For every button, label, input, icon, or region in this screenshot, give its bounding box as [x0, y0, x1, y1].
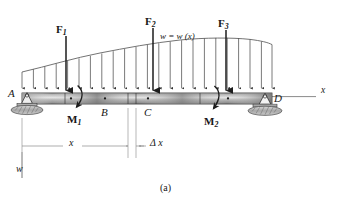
- force-f2-subscript: 2: [152, 20, 156, 29]
- label-moment-m1: M1: [67, 114, 81, 125]
- label-dimension-x: x: [69, 138, 73, 148]
- label-w-axis: w: [16, 164, 23, 174]
- label-force-f2: F2: [145, 16, 156, 27]
- distributed-load-curve: [22, 38, 272, 72]
- label-force-f1: F1: [56, 24, 67, 35]
- moment-m1-symbol: M: [67, 113, 77, 125]
- distributed-load-arrows: [22, 38, 272, 88]
- figure-caption: (a): [160, 183, 171, 193]
- beam-diagram-figure: A B C D x w = w (x) w F1 F2 F3 M1 M2 x Δ…: [0, 0, 337, 201]
- moment-m2-symbol: M: [204, 115, 214, 127]
- moment-m1-subscript: 1: [77, 118, 81, 127]
- force-f2-symbol: F: [145, 15, 152, 27]
- label-dimension-delta-x: Δ x: [150, 138, 163, 148]
- label-load-function: w = w (x): [160, 32, 195, 41]
- force-f1-symbol: F: [56, 23, 63, 35]
- label-moment-m2: M2: [204, 116, 218, 127]
- force-f1-subscript: 1: [63, 28, 67, 37]
- force-f3-symbol: F: [218, 17, 225, 29]
- beam-body: [22, 93, 272, 104]
- label-point-b: B: [101, 107, 108, 118]
- label-point-c: C: [144, 107, 151, 118]
- moment-m2-subscript: 2: [214, 120, 218, 129]
- force-f3-subscript: 3: [225, 22, 229, 31]
- label-x-axis: x: [321, 86, 325, 96]
- label-support-a: A: [8, 88, 15, 99]
- label-force-f3: F3: [218, 18, 229, 29]
- label-support-d: D: [274, 93, 282, 104]
